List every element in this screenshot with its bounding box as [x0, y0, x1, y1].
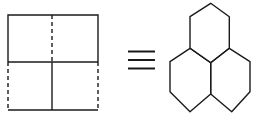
- hexagon-right: [211, 48, 250, 111]
- hexagon-top: [190, 3, 229, 62]
- hexagon-left: [170, 48, 211, 111]
- three-fused-hexagons: [170, 3, 250, 111]
- equivalence-diagram: [0, 0, 260, 118]
- equivalence-symbol: [128, 52, 155, 69]
- subdivided-rectangle: [8, 15, 98, 110]
